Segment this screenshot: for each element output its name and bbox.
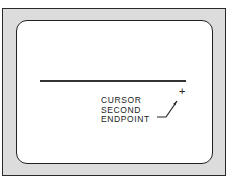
drawn-line (40, 80, 186, 82)
crosshair-cursor-icon: + (179, 86, 185, 97)
cursor-annotation: CURSOR SECOND ENDPOINT (101, 96, 150, 125)
annotation-line-3: ENDPOINT (101, 115, 150, 125)
pointer-arrow-icon (155, 96, 183, 120)
